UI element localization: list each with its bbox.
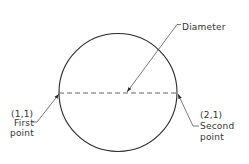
first-point-leader-line bbox=[32, 94, 59, 122]
second-point-leader-line bbox=[178, 94, 199, 126]
first-point-label-line1: First bbox=[14, 118, 34, 128]
circle-shape bbox=[59, 34, 177, 152]
diameter-label: Diameter bbox=[182, 22, 226, 32]
circle-diameter-diagram: Diameter (1,1) First point (2,1) Second … bbox=[0, 0, 249, 164]
second-point-coordinate: (2,1) bbox=[200, 110, 222, 120]
second-point-label-line2: point bbox=[200, 132, 224, 142]
second-point-label-line1: Second bbox=[200, 121, 234, 131]
first-point-label-line2: point bbox=[10, 128, 34, 138]
diameter-leader-line bbox=[127, 25, 181, 93]
